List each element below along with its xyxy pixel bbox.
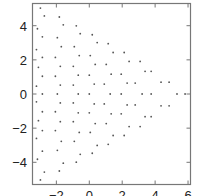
data-point <box>41 93 43 95</box>
data-point <box>75 161 77 163</box>
data-point <box>96 144 98 146</box>
data-point <box>54 57 56 59</box>
data-point <box>89 132 91 134</box>
data-point <box>168 105 170 107</box>
data-point <box>58 170 60 172</box>
data-point <box>77 93 79 95</box>
y-tick-label: −2 <box>12 121 27 136</box>
data-point <box>41 111 43 113</box>
y-tick-label: 2 <box>20 53 27 68</box>
data-point <box>38 120 40 122</box>
data-point <box>72 102 74 104</box>
data-point <box>112 52 114 54</box>
data-point <box>79 33 81 35</box>
data-point <box>62 24 64 26</box>
data-point <box>103 103 105 105</box>
y-tick-label: 4 <box>20 19 27 34</box>
data-point <box>41 36 43 38</box>
data-point <box>79 153 81 155</box>
data-point <box>94 123 96 125</box>
data-point <box>91 152 93 154</box>
data-point <box>120 93 122 95</box>
data-point <box>128 60 130 62</box>
data-point <box>37 158 39 160</box>
data-point <box>184 93 186 95</box>
data-point <box>56 93 58 95</box>
x-axis-tick-labels: −20246 <box>49 188 192 196</box>
data-point <box>72 121 74 123</box>
data-point <box>59 102 61 104</box>
data-point <box>123 135 125 137</box>
axis-ticks <box>33 4 191 185</box>
y-axis-tick-labels: −4−2024 <box>12 19 27 171</box>
data-point <box>176 93 178 95</box>
data-point <box>88 93 90 95</box>
data-point <box>77 112 79 114</box>
x-tick-label: 2 <box>119 188 126 196</box>
data-point <box>120 113 122 115</box>
data-point <box>112 135 114 137</box>
x-tick-label: 4 <box>151 188 158 196</box>
data-point <box>73 140 75 142</box>
data-point <box>144 70 146 72</box>
data-point <box>36 101 38 103</box>
data-point <box>126 104 128 106</box>
data-point <box>107 143 109 145</box>
data-point <box>88 112 90 114</box>
data-point <box>43 171 45 173</box>
data-point <box>139 126 141 128</box>
data-point <box>54 130 56 132</box>
data-point <box>40 7 42 9</box>
x-tick-label: 0 <box>86 188 93 196</box>
data-point <box>54 75 56 77</box>
data-point <box>93 83 95 85</box>
data-point <box>88 74 90 76</box>
data-point <box>89 55 91 57</box>
data-point <box>120 73 122 75</box>
data-point <box>72 84 74 86</box>
data-point <box>56 149 58 151</box>
data-point <box>78 132 80 134</box>
data-point <box>77 74 79 76</box>
data-point <box>144 116 146 118</box>
data-point <box>128 126 130 128</box>
y-tick-label: −4 <box>12 155 27 170</box>
data-point <box>59 65 61 67</box>
x-tick-label: 6 <box>184 188 191 196</box>
data-point <box>78 55 80 57</box>
data-point <box>160 81 162 83</box>
data-point <box>38 66 40 68</box>
data-point <box>62 162 64 164</box>
data-point <box>72 65 74 67</box>
data-point <box>150 70 152 72</box>
data-point <box>150 93 152 95</box>
data-point <box>41 75 43 77</box>
data-point <box>54 111 56 113</box>
data-point <box>139 60 141 62</box>
data-points <box>36 7 186 181</box>
y-tick-label: 0 <box>20 87 27 102</box>
data-point <box>37 28 39 30</box>
data-point <box>59 121 61 123</box>
data-point <box>36 137 38 139</box>
data-point <box>160 105 162 107</box>
data-point <box>150 116 152 118</box>
data-point <box>105 123 107 125</box>
data-point <box>96 42 98 44</box>
data-point <box>134 104 136 106</box>
data-point <box>59 84 61 86</box>
data-point <box>73 46 75 48</box>
data-point <box>60 140 62 142</box>
data-point <box>75 25 77 27</box>
data-point <box>103 83 105 85</box>
data-point <box>60 46 62 48</box>
scatter-chart: −20246 −4−2024 <box>0 0 202 196</box>
data-point <box>141 93 143 95</box>
data-point <box>41 150 43 152</box>
data-point <box>109 93 111 95</box>
data-point <box>58 16 60 18</box>
data-point <box>168 81 170 83</box>
data-point <box>94 64 96 66</box>
data-point <box>43 15 45 17</box>
data-point <box>110 113 112 115</box>
